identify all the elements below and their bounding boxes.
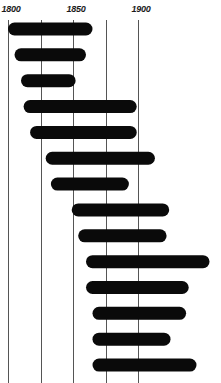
bar-10 (86, 255, 210, 268)
tick-label-1850: 1850 (67, 4, 86, 14)
bar-12 (93, 307, 187, 320)
bar-5 (30, 126, 137, 139)
bar-3 (21, 74, 76, 87)
x-axis-tick-labels: 180018501900 (2, 4, 151, 14)
tick-label-1800: 1800 (2, 4, 21, 14)
bar-2 (15, 48, 87, 61)
bar-7 (51, 178, 129, 191)
bar-1 (8, 23, 93, 36)
tick-label-1900: 1900 (132, 4, 151, 14)
bars (8, 23, 210, 372)
bar-13 (93, 333, 171, 346)
bar-6 (46, 152, 155, 165)
bar-11 (86, 281, 189, 294)
bar-8 (72, 203, 170, 216)
timeline-chart: 180018501900 (0, 0, 221, 383)
bar-9 (78, 229, 166, 242)
bar-4 (24, 100, 137, 113)
bar-14 (93, 359, 197, 372)
